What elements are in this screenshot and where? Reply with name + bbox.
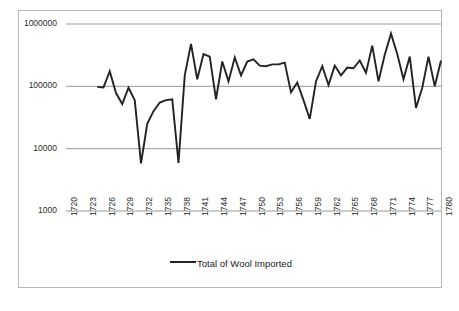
y-tick-label: 1000 [19, 206, 57, 215]
chart-legend: Total of Wool Imported [19, 257, 443, 269]
x-tick-label: 1762 [333, 197, 342, 216]
x-tick-label: 1753 [276, 197, 285, 216]
chart-frame: 1000000100000100001000 17201723172617291… [18, 10, 442, 288]
legend-label: Total of Wool Imported [197, 258, 292, 269]
x-tick-label: 1774 [408, 197, 417, 216]
x-tick-label: 1765 [351, 197, 360, 216]
plot-area: 1000000100000100001000 17201723172617291… [19, 11, 443, 289]
x-tick-label: 1777 [426, 197, 435, 216]
x-tick-label: 1726 [108, 197, 117, 216]
x-tick-label: 1723 [89, 197, 98, 216]
x-tick-label: 1729 [126, 197, 135, 216]
x-tick-label: 1720 [70, 197, 79, 216]
x-tick-label: 1744 [220, 197, 229, 216]
data-line-total-of-wool-imported [97, 34, 441, 164]
x-tick-label: 1732 [145, 197, 154, 216]
x-tick-label: 1750 [258, 197, 267, 216]
legend-line-swatch [170, 261, 196, 263]
x-tick-label: 1735 [164, 197, 173, 216]
x-tick-label: 1768 [370, 197, 379, 216]
y-tick-label: 1000000 [19, 19, 57, 28]
x-tick-label: 1747 [239, 197, 248, 216]
chart-svg [19, 11, 443, 289]
x-tick-label: 1738 [183, 197, 192, 216]
x-tick-label: 1771 [389, 197, 398, 216]
x-tick-label: 1741 [201, 197, 210, 216]
x-tick-label: 1759 [314, 197, 323, 216]
y-tick-label: 10000 [19, 144, 57, 153]
y-tick-label: 100000 [19, 81, 57, 90]
x-tick-label: 1780 [445, 197, 454, 216]
x-tick-label: 1756 [295, 197, 304, 216]
